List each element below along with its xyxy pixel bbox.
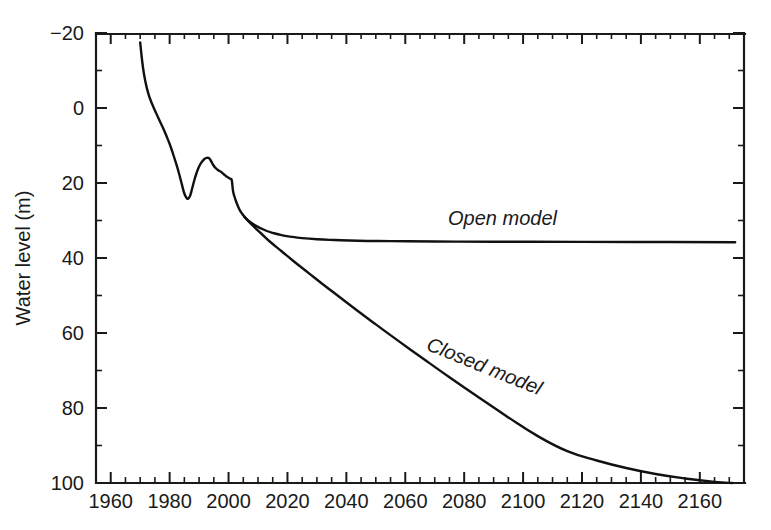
y-tick-label: 20 <box>62 172 84 194</box>
chart-background <box>0 0 771 530</box>
y-tick-label: 0 <box>73 97 84 119</box>
x-tick-label: 2000 <box>206 490 251 512</box>
x-tick-label: 2040 <box>324 490 369 512</box>
y-tick-label: 60 <box>62 322 84 344</box>
x-tick-label: 2060 <box>383 490 428 512</box>
x-tick-label: 2160 <box>678 490 723 512</box>
annotation-open-model: Open model <box>448 207 558 229</box>
y-tick-label: 40 <box>62 247 84 269</box>
chart-figure: 1960198020002020204020602080210021202140… <box>0 0 771 530</box>
x-tick-label: 1960 <box>88 490 133 512</box>
y-tick-label: −20 <box>50 22 84 44</box>
water-level-line-chart: 1960198020002020204020602080210021202140… <box>0 0 771 530</box>
y-tick-label: 80 <box>62 397 84 419</box>
y-axis-title: Water level (m) <box>12 191 34 326</box>
x-tick-label: 1980 <box>147 490 192 512</box>
x-tick-label: 2100 <box>501 490 546 512</box>
y-tick-label: 100 <box>51 472 84 494</box>
x-tick-label: 2080 <box>442 490 487 512</box>
x-axis-tick-labels: 1960198020002020204020602080210021202140… <box>88 490 722 512</box>
x-tick-label: 2020 <box>265 490 310 512</box>
x-tick-label: 2140 <box>619 490 664 512</box>
x-tick-label: 2120 <box>560 490 605 512</box>
